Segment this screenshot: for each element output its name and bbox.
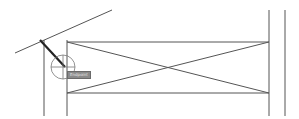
cad-drawing-canvas[interactable]: [0, 0, 299, 119]
slanted-line[interactable]: [15, 10, 112, 53]
snap-tooltip: Endpoint: [67, 71, 91, 79]
